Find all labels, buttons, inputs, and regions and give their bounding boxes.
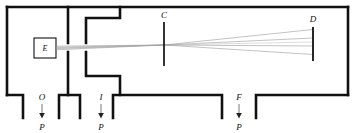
chamber-outline [7,7,348,118]
port-o-pump-label: P [38,122,45,132]
wall-step-lower [86,52,120,95]
schematic-svg: E C D O P I [0,0,356,133]
port-o-label: O [39,92,46,102]
port-f: F P [235,92,242,132]
wall-bottom-right [256,95,348,118]
wall-left-port-throat [7,95,23,118]
port-i-arrow-head [98,113,104,119]
wall-step-upper [86,7,120,43]
port-i-label: I [99,92,104,102]
figure-canvas: E C D O P I [0,0,356,133]
port-o: O P [38,92,46,132]
wall-port-o-throat [59,95,80,118]
wall-bottom-main [113,95,222,118]
port-f-pump-label: P [235,122,242,132]
source-box-label: E [42,44,48,53]
beam-ray-1 [56,30,313,47]
beam-bundle [56,30,313,55]
detector-label: D [309,14,317,24]
source-box: E [34,38,56,58]
port-o-arrow-head [39,113,45,119]
port-f-arrow-head [236,113,242,119]
detector-plate: D [309,14,317,61]
port-i-pump-label: P [97,122,104,132]
port-i: I P [97,92,104,132]
crossover-label: C [161,10,168,20]
port-f-label: F [235,92,242,102]
crossover-aperture: C [161,10,168,66]
